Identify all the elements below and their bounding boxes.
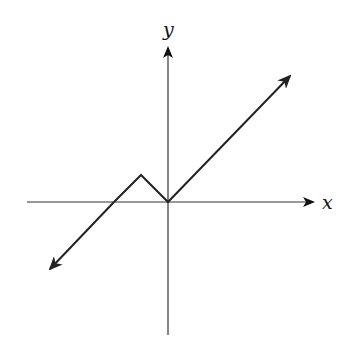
x-axis-label: x	[322, 191, 333, 213]
y-axis-label: y	[162, 18, 174, 40]
graph-canvas: x y	[0, 0, 353, 346]
left-ray-arrow	[50, 202, 114, 269]
function-curve	[114, 76, 290, 202]
